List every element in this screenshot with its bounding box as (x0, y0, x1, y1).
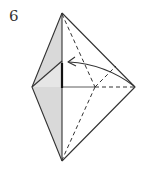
fold-line-lower (62, 87, 95, 160)
fold-line-diagonal (95, 66, 116, 87)
fold-line-upper (62, 14, 95, 87)
origami-diagram (0, 0, 145, 169)
fold-arrow (69, 62, 134, 86)
arrow-head-icon (68, 57, 76, 66)
